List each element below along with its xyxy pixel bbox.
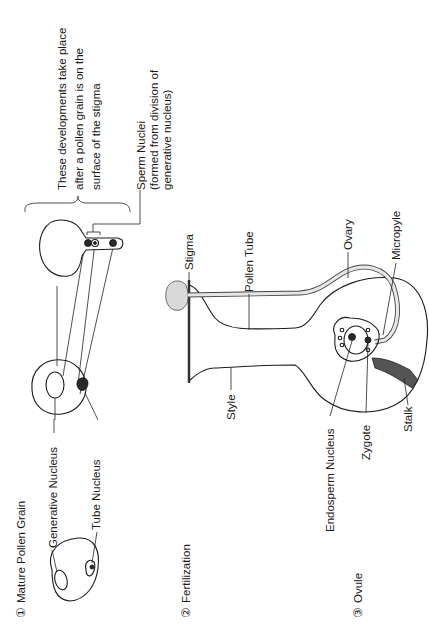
svg-text:Ovary: Ovary [342, 219, 354, 250]
section-title-1: ①Mature Pollen Grain [15, 501, 27, 618]
svg-text:generative nucleus): generative nucleus) [161, 89, 173, 190]
svg-text:Style: Style [225, 394, 237, 420]
label-ovary: Ovary [342, 219, 354, 250]
label-endosperm-nucleus: Endosperm Nucleus [324, 428, 336, 532]
note-text: These developments take place after a po… [56, 28, 102, 190]
svg-text:Stalk: Stalk [402, 406, 414, 432]
svg-text:Sperm Nuclei: Sperm Nuclei [135, 121, 147, 190]
pistil [166, 267, 428, 412]
section-title-text-1: Mature Pollen Grain [15, 501, 27, 603]
label-zygote: Zygote [360, 425, 372, 460]
section-number-2: ② [180, 607, 192, 618]
fertilization-diagram: ①Mature Pollen Grain ②Fertilization ③Ovu… [0, 0, 429, 627]
svg-text:Endosperm Nucleus: Endosperm Nucleus [324, 428, 336, 532]
label-sperm-nuclei: Sperm Nuclei (formed from division of ge… [135, 69, 173, 190]
svg-text:③Ovule: ③Ovule [352, 573, 364, 618]
label-micropyle: Micropyle [390, 211, 402, 260]
svg-text:②Fertilization: ②Fertilization [180, 544, 192, 618]
svg-text:①Mature Pollen Grain: ①Mature Pollen Grain [15, 501, 27, 618]
svg-text:surface of the stigma: surface of the stigma [90, 83, 102, 190]
svg-text:Stigma: Stigma [183, 234, 195, 270]
label-stalk: Stalk [402, 406, 414, 432]
section-title-text-3: Ovule [352, 573, 364, 603]
svg-text:Micropyle: Micropyle [390, 211, 402, 260]
svg-text:(formed from division of: (formed from division of [148, 69, 160, 190]
section-number-3: ③ [352, 607, 364, 618]
svg-text:Generative Nucleus: Generative Nucleus [47, 447, 59, 548]
label-style: Style [225, 394, 237, 420]
svg-text:Zygote: Zygote [360, 425, 372, 460]
label-generative-nucleus: Generative Nucleus [47, 447, 59, 548]
svg-text:after a pollen grain is on the: after a pollen grain is on the [73, 48, 85, 190]
section-title-2: ②Fertilization [180, 544, 192, 618]
svg-text:These developments take place: These developments take place [56, 28, 68, 190]
label-tube-nucleus: Tube Nucleus [90, 459, 102, 530]
label-stigma: Stigma [183, 234, 195, 270]
svg-text:Tube Nucleus: Tube Nucleus [90, 459, 102, 530]
label-pollen-tube: Pollen Tube [243, 231, 255, 292]
curly-brace [25, 196, 130, 212]
section-title-3: ③Ovule [352, 573, 364, 618]
svg-text:Pollen Tube: Pollen Tube [243, 231, 255, 292]
leader-generative-1 [52, 550, 57, 572]
section-title-text-2: Fertilization [180, 544, 192, 603]
section-number-1: ① [15, 607, 27, 618]
